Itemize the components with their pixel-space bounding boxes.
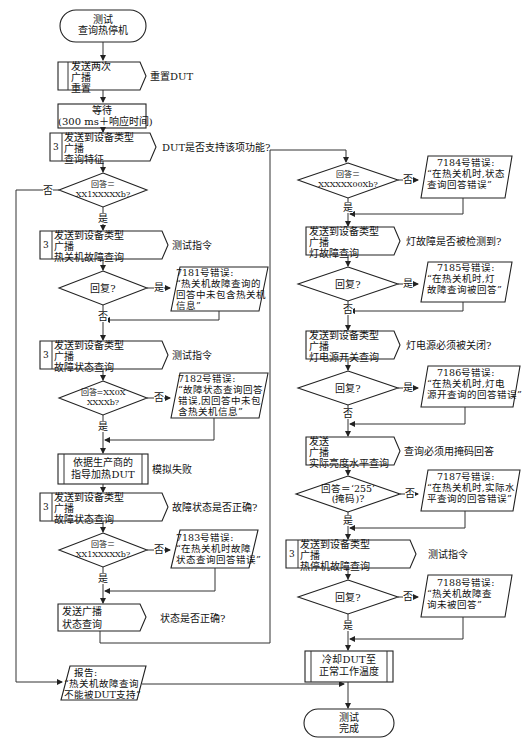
n7-prefix: 3 (43, 502, 49, 512)
n6-line: 指导加热DUT (64, 469, 142, 481)
n5-line: 发送到设备类型 (54, 340, 124, 351)
n11-text: 发送 广播 实际亮度水平查询 (309, 436, 389, 469)
d2-text: 回复? (63, 283, 143, 294)
n13-text: 冷却DUT至 正常工作温度 (311, 654, 387, 678)
n7-line: 发送到设备类型 (54, 492, 124, 503)
d3-line: 回答=XX0X (63, 388, 143, 398)
n2-line: (300 ms＋响应时间) (58, 116, 146, 127)
d7-yes-label: 是 (403, 382, 413, 393)
n5-line: 故障状态查询 (54, 362, 124, 373)
n10-line: 发送到设备类型 (309, 330, 379, 341)
d1-text: 回答＝ XX1XXXXXb? (63, 180, 143, 200)
n1-line: 重置 (71, 83, 111, 94)
e7185-line: 7185号错误: (427, 262, 502, 273)
n7-line: 广播 (54, 503, 124, 514)
n12-line: 广播 (300, 550, 370, 561)
n3-text: 发送到设备类型 广播 查询特征 (64, 132, 134, 165)
e7184-line: 查询回答错误” (427, 179, 505, 190)
n3-note: DUT是否支持该项功能? (162, 142, 270, 153)
n5-note: 测试指令 (172, 350, 212, 361)
n4-prefix: 3 (43, 240, 49, 250)
d6-text: 回复? (303, 279, 393, 290)
start-label: 测试 查询热停机 (60, 14, 146, 36)
n9-text: 发送到设备类型 广播 灯故障查询 (309, 226, 379, 259)
e7181-line: 7181号错误: (176, 267, 266, 278)
report-line: “热关机故障查询 (64, 678, 141, 689)
n9-line: 发送到设备类型 (309, 226, 379, 237)
e7187-line: “在热关机时,实际水 (427, 482, 515, 493)
e7184-text: 7184号错误: “在热关机时,状态 查询回答错误” (427, 157, 505, 190)
n7-text: 发送到设备类型 广播 故障状态查询 (54, 492, 124, 525)
n3-prefix: 3 (53, 142, 59, 152)
d1-no-label: 否 (43, 185, 53, 196)
n4-line: 发送到设备类型 (54, 230, 124, 241)
n13-line: 正常工作温度 (311, 666, 387, 678)
d9-no-label: 否 (403, 591, 413, 602)
e7185-text: 7185号错误: “在热关机时,灯 故障查询被回答” (427, 262, 502, 295)
n11-note: 查询必须用掩码回答 (404, 446, 494, 457)
e7188-text: 7188号错误: “热关机故障查 询未被回答” (427, 577, 494, 610)
e7181-line: 信息” (176, 300, 266, 311)
e7186-line: 源开查询的回答错误” (427, 389, 522, 400)
d8-text: 回答＝‘255’ (掩码)? (303, 484, 393, 504)
n2-line: 等待 (58, 105, 146, 116)
d8-yes-label: 是 (343, 515, 353, 526)
e7184-line: 7184号错误: (427, 157, 505, 168)
e7182-text: 7182号错误: “故障状态查询回答 错误,因回答中未包 含热关机信息” (178, 373, 263, 417)
d1-yes-label: 是 (98, 213, 108, 224)
n10-note: 灯电源必须被关闭? (406, 340, 491, 351)
e7182-line: 含热关机信息” (178, 406, 263, 417)
d5-line: 回答＝ (303, 170, 393, 180)
end-line1: 测试 (304, 712, 394, 723)
n8-line: 状态查询 (62, 618, 102, 631)
n8-line: 发送广播 (62, 605, 102, 618)
n1-line: 发送两次 (71, 61, 111, 72)
n12-prefix: 3 (289, 549, 295, 559)
d5-no-label: 否 (403, 174, 413, 185)
n9-line: 灯故障查询 (309, 248, 379, 259)
e7188-line: 询未被回答” (427, 599, 494, 610)
report-text: 报告: “热关机故障查询 不能被DUT支持” (64, 667, 141, 700)
d5-yes-label: 是 (343, 202, 353, 213)
start-line2: 查询热停机 (60, 25, 146, 36)
d1-line: XX1XXXXXb? (63, 190, 143, 200)
n6-note: 模拟失败 (152, 464, 192, 475)
n5-line: 广播 (54, 351, 124, 362)
n11-line: 广播 (309, 447, 389, 458)
n5-prefix: 3 (43, 350, 49, 360)
d6-yes-label: 是 (403, 278, 413, 289)
e7181-line: “热关机故障查询的 (176, 278, 266, 289)
e7187-line: 平查询的回答错误” (427, 493, 515, 504)
n4-line: 热关机故障查询 (54, 252, 124, 263)
n3-line: 查询特征 (64, 154, 134, 165)
e7184-line: “在热关机时,状态 (427, 168, 505, 179)
n12-line: 发送到设备类型 (300, 539, 370, 550)
n12-text: 发送到设备类型 广播 热停机故障查询 (300, 539, 370, 572)
d9-yes-label: 是 (343, 620, 353, 631)
e7183-line: 状态查询回答错误” (176, 554, 261, 565)
n4-line: 广播 (54, 241, 124, 252)
e7188-line: “热关机故障查 (427, 588, 494, 599)
n3-line: 发送到设备类型 (64, 132, 134, 143)
d7-text: 回复? (303, 383, 393, 394)
e7185-line: “在热关机时,灯 (427, 273, 502, 284)
n7-note: 故障状态是否正确? (172, 502, 257, 513)
n10-line: 广播 (309, 341, 379, 352)
n9-note: 灯故障是否被检测到? (406, 236, 501, 247)
e7185-line: 故障查询被回答” (427, 284, 502, 295)
e7182-line: 7182号错误: (178, 373, 263, 384)
n6-text: 依据生产商的 指导加热DUT (64, 457, 142, 481)
e7181-text: 7181号错误: “热关机故障查询的 回答中未包含热关机 信息” (176, 267, 266, 311)
e7181-line: 回答中未包含热关机 (176, 289, 266, 300)
end-label: 测试 完成 (304, 712, 394, 734)
d4-yes-label: 是 (98, 573, 108, 584)
n1-note: 重置DUT (150, 71, 193, 82)
report-line: 报告: (64, 667, 141, 678)
n12-line: 热停机故障查询 (300, 561, 370, 572)
d3-no-label: 否 (154, 392, 164, 403)
n13-line: 冷却DUT至 (311, 654, 387, 666)
e7182-line: 错误,因回答中未包 (178, 395, 263, 406)
d4-line: 回答＝ (63, 540, 143, 550)
n7-line: 故障状态查询 (54, 514, 124, 525)
n3-line: 广播 (64, 143, 134, 154)
